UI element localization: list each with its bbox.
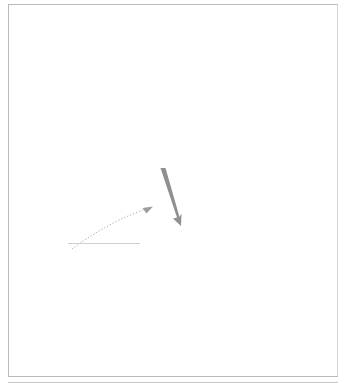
annotation-pointer	[68, 207, 153, 250]
annotation-arrow-head	[143, 207, 154, 214]
figure-root	[0, 0, 339, 389]
finch-beak-depth-histograms	[0, 0, 339, 389]
average-shift-arrow	[161, 168, 182, 226]
arrow-shaft-head	[161, 168, 182, 226]
annotation-dotted-line	[72, 208, 149, 249]
